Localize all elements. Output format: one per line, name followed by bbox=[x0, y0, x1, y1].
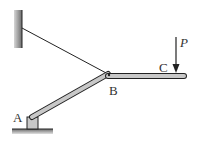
label-c: C bbox=[159, 61, 168, 74]
label-a: A bbox=[13, 111, 22, 124]
joint-b bbox=[108, 74, 110, 76]
structure-diagram bbox=[0, 0, 198, 147]
label-p: P bbox=[180, 36, 188, 49]
label-b: B bbox=[109, 84, 118, 97]
cable bbox=[22, 28, 108, 74]
load-arrow-p bbox=[173, 37, 180, 73]
bar-ab bbox=[32, 74, 108, 117]
wall-support bbox=[14, 10, 22, 48]
